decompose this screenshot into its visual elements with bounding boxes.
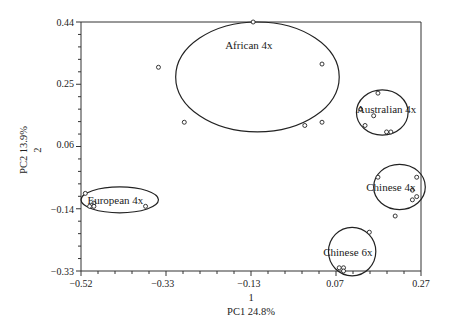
y-axis-title-number: 2 — [32, 147, 43, 152]
point-australian-4x — [385, 130, 389, 134]
group-ellipses — [81, 22, 425, 276]
y-tick-label: 0.44 — [57, 17, 75, 28]
tick-labels: −0.52−0.33−0.130.070.270.440.250.06−0.14… — [51, 17, 430, 290]
point-chinese-4x — [376, 175, 380, 179]
data-points — [83, 20, 418, 273]
y-tick-label: 0.25 — [57, 78, 75, 89]
point-african-4x — [251, 20, 255, 24]
point-african-4x — [320, 120, 324, 124]
point-chinese-4x — [393, 214, 397, 218]
pca-scatter-chart: −0.52−0.33−0.130.070.270.440.250.06−0.14… — [0, 0, 453, 329]
point-chinese-6x — [342, 269, 346, 273]
point-chinese-6x — [337, 266, 341, 270]
point-african-4x — [303, 123, 307, 127]
y-tick-label: 0.06 — [57, 139, 75, 150]
point-chinese-4x — [415, 175, 419, 179]
x-tick-label: −0.52 — [69, 278, 92, 289]
label-european-4x: European 4x — [87, 194, 143, 206]
x-axis-title-number: 1 — [248, 292, 253, 303]
point-australian-4x — [376, 91, 380, 95]
point-australian-4x — [363, 123, 367, 127]
point-african-4x — [182, 120, 186, 124]
ticks — [76, 22, 421, 276]
label-chinese-6x: Chinese 6x — [323, 246, 373, 258]
point-chinese-4x — [415, 195, 419, 199]
x-tick-label: 0.07 — [326, 278, 344, 289]
y-tick-label: −0.33 — [51, 266, 74, 277]
x-axis-title: PC1 24.8% — [227, 306, 275, 317]
point-chinese-6x — [367, 230, 371, 234]
x-tick-label: −0.33 — [151, 278, 174, 289]
point-european-4x — [144, 204, 148, 208]
group-labels: African 4xAustralian 4xEuropean 4xChines… — [87, 39, 416, 258]
label-chinese-4x: Chinese 4x — [366, 181, 416, 193]
point-african-4x — [156, 65, 160, 69]
x-tick-label: −0.13 — [237, 278, 260, 289]
point-australian-4x — [389, 130, 393, 134]
label-australian-4x: Australian 4x — [357, 103, 417, 115]
y-axis-title: PC2 13.9% — [18, 126, 29, 174]
y-tick-label: −0.14 — [51, 204, 74, 215]
label-african-4x: African 4x — [225, 39, 273, 51]
point-african-4x — [320, 62, 324, 66]
x-tick-label: 0.27 — [412, 278, 430, 289]
point-chinese-4x — [410, 198, 414, 202]
